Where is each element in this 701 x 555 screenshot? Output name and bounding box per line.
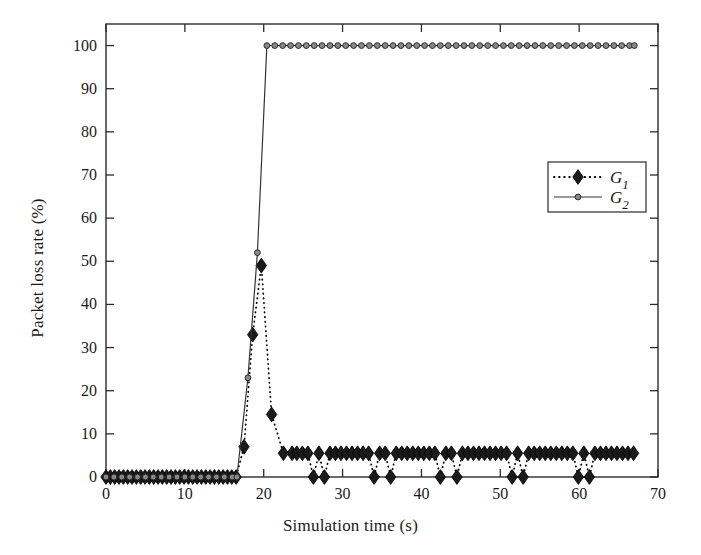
marker-circle: [414, 43, 420, 49]
marker-diamond: [308, 470, 318, 485]
marker-diamond: [584, 470, 594, 485]
marker-circle: [343, 43, 349, 49]
marker-circle: [288, 43, 294, 49]
marker-circle: [255, 250, 261, 256]
marker-circle: [198, 474, 204, 480]
x-tick-label: 10: [177, 485, 193, 503]
y-tick-label: 70: [81, 166, 97, 184]
marker-diamond: [256, 258, 266, 273]
marker-circle: [182, 474, 188, 480]
y-tick-label: 80: [81, 123, 97, 141]
marker-circle: [390, 43, 396, 49]
marker-circle: [234, 474, 240, 480]
y-axis-title-wrapper: Packet loss rate (%): [28, 118, 48, 418]
marker-circle: [280, 43, 286, 49]
x-tick-label: 50: [492, 485, 508, 503]
marker-diamond: [435, 470, 445, 485]
y-tick-label: 20: [81, 382, 97, 400]
marker-circle: [311, 43, 317, 49]
marker-circle: [221, 474, 227, 480]
marker-circle: [532, 43, 538, 49]
marker-circle: [296, 43, 302, 49]
marker-circle: [166, 474, 172, 480]
marker-circle: [143, 474, 149, 480]
marker-circle: [540, 43, 546, 49]
marker-circle: [461, 43, 467, 49]
marker-circle: [135, 474, 141, 480]
marker-circle: [572, 43, 578, 49]
marker-circle: [366, 43, 372, 49]
x-tick-label: 0: [102, 485, 110, 503]
marker-circle: [422, 43, 428, 49]
chart-figure: Packet loss rate (%) Simulation time (s)…: [0, 0, 701, 555]
marker-circle: [611, 43, 617, 49]
marker-circle: [469, 43, 475, 49]
marker-circle: [103, 474, 109, 480]
series-line-G2: [106, 46, 634, 477]
marker-circle: [206, 474, 212, 480]
marker-circle: [174, 474, 180, 480]
marker-circle: [603, 43, 609, 49]
marker-diamond: [314, 446, 324, 461]
x-tick-label: 20: [256, 485, 272, 503]
legend-box: [548, 162, 646, 212]
marker-circle: [359, 43, 365, 49]
marker-circle: [190, 474, 196, 480]
y-tick-label: 100: [73, 37, 97, 55]
marker-circle: [508, 43, 514, 49]
marker-circle: [406, 43, 412, 49]
marker-circle: [111, 474, 117, 480]
legend[interactable]: G1G2: [548, 162, 646, 212]
marker-circle: [382, 43, 388, 49]
marker-diamond: [385, 470, 395, 485]
y-axis-title: Packet loss rate (%): [28, 198, 47, 337]
x-tick-label: 30: [335, 485, 351, 503]
legend-marker-g2: [575, 194, 581, 200]
y-tick-label: 10: [81, 425, 97, 443]
x-axis-title: Simulation time (s): [0, 516, 701, 536]
marker-circle: [516, 43, 522, 49]
marker-circle: [524, 43, 530, 49]
marker-circle: [335, 43, 341, 49]
marker-circle: [150, 474, 156, 480]
marker-diamond: [573, 470, 583, 485]
y-tick-label: 60: [81, 209, 97, 227]
marker-diamond: [319, 470, 329, 485]
y-tick-label: 90: [81, 80, 97, 98]
plot-canvas: G1G2: [0, 0, 701, 555]
marker-diamond: [452, 470, 462, 485]
marker-diamond: [579, 446, 589, 461]
marker-circle: [351, 43, 357, 49]
marker-diamond: [266, 407, 276, 422]
series-G2: [103, 43, 637, 480]
marker-diamond: [507, 470, 517, 485]
marker-circle: [548, 43, 554, 49]
marker-circle: [398, 43, 404, 49]
y-tick-label: 0: [89, 468, 97, 486]
marker-circle: [303, 43, 309, 49]
marker-circle: [579, 43, 585, 49]
marker-circle: [158, 474, 164, 480]
marker-circle: [445, 43, 451, 49]
marker-circle: [119, 474, 125, 480]
marker-circle: [272, 43, 278, 49]
marker-circle: [485, 43, 491, 49]
marker-circle: [564, 43, 570, 49]
marker-circle: [127, 474, 133, 480]
marker-circle: [327, 43, 333, 49]
series-G1: [101, 258, 639, 484]
marker-circle: [374, 43, 380, 49]
marker-circle: [430, 43, 436, 49]
y-tick-label: 40: [81, 295, 97, 313]
x-tick-label: 60: [571, 485, 587, 503]
marker-diamond: [518, 470, 528, 485]
marker-circle: [264, 43, 270, 49]
y-tick-label: 30: [81, 339, 97, 357]
marker-circle: [556, 43, 562, 49]
marker-circle: [619, 43, 625, 49]
marker-circle: [437, 43, 443, 49]
marker-diamond: [512, 446, 522, 461]
marker-circle: [214, 474, 220, 480]
legend-label-subscript: 1: [622, 177, 629, 192]
marker-circle: [245, 375, 251, 381]
